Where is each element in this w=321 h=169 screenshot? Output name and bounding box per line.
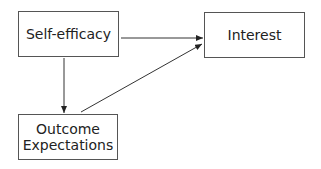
node-interest: Interest (204, 12, 305, 58)
node-label: Interest (228, 27, 282, 43)
node-label: Self-efficacy (26, 26, 111, 42)
node-self-efficacy: Self-efficacy (18, 11, 119, 57)
node-label-line2: Expectations (23, 137, 114, 153)
node-outcome-expectations: Outcome Expectations (18, 114, 118, 160)
node-label-line1: Outcome (36, 121, 100, 137)
